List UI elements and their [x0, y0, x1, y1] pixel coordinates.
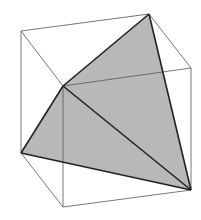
cube-edge-top-left-diagonal	[21, 31, 63, 86]
cube-edge-top-back	[21, 14, 149, 31]
cube-tetrahedron-diagram	[0, 0, 201, 220]
cube-edge-bottom-front	[63, 190, 191, 207]
tetrahedron-shaded-face	[21, 14, 191, 190]
